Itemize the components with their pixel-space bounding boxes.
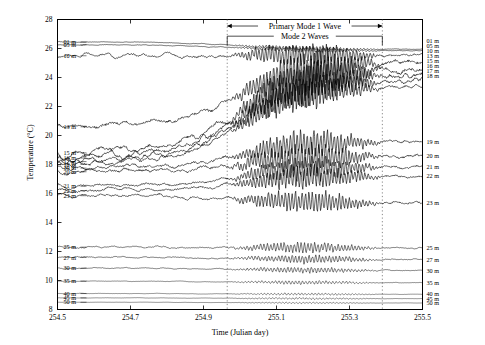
series-line-23-m: [58, 190, 423, 211]
depth-label-left-05-m: 05 m: [64, 41, 77, 48]
depth-label-left-30-m: 30 m: [64, 264, 77, 271]
x-tick-label: 254.7: [122, 313, 139, 322]
x-tick-label: 254.9: [195, 313, 212, 322]
y-axis-ticks: 810121416182022242628: [45, 15, 62, 314]
depth-label-right-19-m: 19 m: [427, 138, 440, 145]
y-tick-label: 14: [45, 218, 53, 227]
x-tick-label: 255.5: [414, 313, 431, 322]
y-tick-label: 10: [45, 276, 53, 285]
depth-label-left-27-m: 27 m: [64, 254, 77, 261]
depth-label-left-50-m: 50 m: [64, 298, 77, 305]
annotation-label-primary-mode-1-wave: Primary Mode 1 Wave: [269, 22, 342, 31]
series-line-40-m: [58, 293, 423, 295]
y-tick-label: 16: [45, 189, 53, 198]
depth-label-right-50-m: 50 m: [427, 299, 440, 306]
series-line-45-m: [58, 297, 423, 299]
depth-label-right-25-m: 25 m: [427, 244, 440, 251]
series-line-16-m: [58, 62, 423, 163]
series-line-01-m: [58, 41, 423, 50]
series-line-10-m: [58, 44, 423, 66]
right-depth-labels: 01 m05 m10 m13 m15 m16 m17 m18 m19 m20 m…: [427, 37, 440, 306]
y-tick-label: 20: [45, 131, 53, 140]
depth-label-right-21-m: 21 m: [427, 163, 440, 170]
annotations: Primary Mode 1 WaveMode 2 Waves: [227, 22, 382, 45]
y-tick-label: 26: [45, 44, 53, 53]
series-line-25-m: [58, 242, 423, 253]
y-tick-label: 28: [45, 15, 53, 24]
x-axis-ticks: 254.5254.7254.9255.1255.3255.5: [49, 20, 431, 322]
y-axis-title: Temperature (°C): [26, 93, 35, 213]
series-line-50-m: [58, 302, 423, 304]
depth-label-right-23-m: 23 m: [427, 199, 440, 206]
x-tick-label: 255.3: [341, 313, 358, 322]
series-line-30-m: [58, 267, 423, 273]
annotation-label-mode-2-waves: Mode 2 Waves: [281, 32, 329, 41]
depth-label-right-27-m: 27 m: [427, 256, 440, 263]
depth-label-right-18-m: 18 m: [427, 72, 440, 79]
series-line-27-m: [58, 255, 423, 264]
chart-screenshot: Temperature (°C) Time (Julian day) 81012…: [0, 0, 485, 345]
depth-label-left-13-m: 13 m: [64, 123, 77, 130]
y-tick-label: 24: [45, 73, 53, 82]
left-depth-labels: 01 m05 m10 m13 m15 m16 m17 m18 m19 m20 m…: [64, 38, 87, 305]
y-tick-label: 12: [45, 247, 53, 256]
x-axis-title: Time (Julian day): [57, 328, 423, 337]
depth-label-left-35-m: 35 m: [64, 277, 77, 284]
y-tick-label: 22: [45, 102, 53, 111]
x-tick-label: 255.1: [268, 313, 285, 322]
depth-label-left-20-m: 20 m: [64, 168, 77, 175]
x-tick-label: 254.5: [49, 313, 66, 322]
series-lines: [58, 41, 423, 303]
depth-label-left-25-m: 25 m: [64, 243, 77, 250]
depth-label-right-20-m: 20 m: [427, 152, 440, 159]
depth-label-left-10-m: 10 m: [64, 52, 77, 59]
temperature-timeseries-chart: 810121416182022242628 254.5254.7254.9255…: [0, 0, 485, 345]
series-line-35-m: [58, 281, 423, 285]
depth-label-right-35-m: 35 m: [427, 279, 440, 286]
series-line-21-m: [58, 156, 423, 189]
depth-label-left-23-m: 23 m: [64, 192, 77, 199]
depth-label-right-22-m: 22 m: [427, 172, 440, 179]
depth-label-right-30-m: 30 m: [427, 267, 440, 274]
y-tick-label: 18: [45, 160, 53, 169]
series-line-20-m: [58, 142, 423, 175]
plot-frame: [58, 20, 423, 310]
